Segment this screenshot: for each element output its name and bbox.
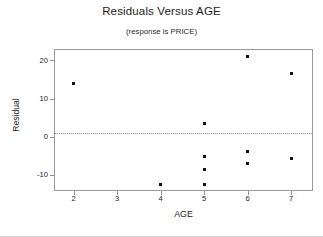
x-axis-label: AGE	[54, 209, 313, 219]
data-point	[203, 183, 206, 186]
y-tick-label: -10	[24, 170, 48, 179]
data-point	[246, 55, 249, 58]
zero-reference-line	[55, 133, 312, 134]
x-tick-label: 2	[66, 194, 82, 203]
x-tick-label: 4	[153, 194, 169, 203]
y-tick-mark	[50, 137, 54, 138]
x-tick-label: 3	[109, 194, 125, 203]
y-tick-label: 10	[24, 94, 48, 103]
x-tick-mark	[117, 191, 118, 195]
y-tick-label: 20	[24, 56, 48, 65]
y-tick-label: 0	[24, 132, 48, 141]
x-tick-mark	[74, 191, 75, 195]
residual-plot-figure: Residuals Versus AGE (response is PRICE)…	[0, 0, 323, 237]
data-point	[290, 157, 293, 160]
y-tick-mark	[50, 60, 54, 61]
x-tick-label: 6	[240, 194, 256, 203]
y-tick-mark	[50, 175, 54, 176]
data-point	[246, 150, 249, 153]
data-point	[203, 155, 206, 158]
x-tick-mark	[248, 191, 249, 195]
x-tick-label: 5	[196, 194, 212, 203]
y-axis-label: Residual	[11, 85, 21, 145]
plot-area	[54, 49, 313, 191]
data-point	[72, 82, 75, 85]
y-tick-mark	[50, 99, 54, 100]
data-point	[203, 122, 206, 125]
data-point	[290, 72, 293, 75]
chart-subtitle: (response is PRICE)	[0, 27, 323, 36]
page-bottom-edge	[0, 236, 323, 237]
x-tick-mark	[291, 191, 292, 195]
chart-title: Residuals Versus AGE	[0, 5, 323, 17]
data-point	[203, 168, 206, 171]
data-point	[246, 162, 249, 165]
x-tick-mark	[204, 191, 205, 195]
x-tick-label: 7	[283, 194, 299, 203]
x-tick-mark	[161, 191, 162, 195]
data-point	[159, 183, 162, 186]
